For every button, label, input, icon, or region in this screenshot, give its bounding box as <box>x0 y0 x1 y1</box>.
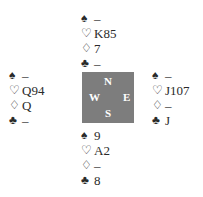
spade-icon: ♠ <box>81 128 94 143</box>
compass: N W E S <box>82 72 134 123</box>
spade-icon: ♠ <box>81 11 94 26</box>
north-hand: ♠– ♡K85 ♢7 ♣– <box>81 11 116 71</box>
diamond-icon: ♢ <box>81 41 94 56</box>
heart-icon: ♡ <box>152 83 165 98</box>
diamond-icon: ♢ <box>9 98 22 113</box>
west-diamonds: Q <box>22 98 31 113</box>
west-clubs: – <box>22 113 29 128</box>
heart-icon: ♡ <box>81 143 94 158</box>
spade-icon: ♠ <box>152 68 165 83</box>
east-spades: – <box>165 68 172 83</box>
heart-icon: ♡ <box>81 26 94 41</box>
spade-icon: ♠ <box>9 68 22 83</box>
west-spades: – <box>22 68 29 83</box>
compass-west: W <box>89 91 100 103</box>
club-icon: ♣ <box>81 56 94 71</box>
heart-icon: ♡ <box>9 83 22 98</box>
diamond-icon: ♢ <box>152 98 165 113</box>
south-clubs: 8 <box>94 173 101 188</box>
club-icon: ♣ <box>81 173 94 188</box>
club-icon: ♣ <box>152 113 165 128</box>
south-hand: ♠9 ♡A2 ♢– ♣8 <box>81 128 110 188</box>
south-hearts: A2 <box>94 143 110 158</box>
west-hearts: Q94 <box>22 83 44 98</box>
compass-east: E <box>123 91 130 103</box>
south-diamonds: – <box>94 158 101 173</box>
north-diamonds: 7 <box>94 41 101 56</box>
west-hand: ♠– ♡Q94 ♢Q ♣– <box>9 68 44 128</box>
east-clubs: J <box>165 113 170 128</box>
club-icon: ♣ <box>9 113 22 128</box>
east-diamonds: – <box>165 98 172 113</box>
compass-north: N <box>104 75 112 87</box>
east-hearts: J107 <box>165 83 190 98</box>
diamond-icon: ♢ <box>81 158 94 173</box>
north-spades: – <box>94 11 101 26</box>
north-hearts: K85 <box>94 26 116 41</box>
compass-south: S <box>105 107 111 119</box>
north-clubs: – <box>94 56 101 71</box>
south-spades: 9 <box>94 128 101 143</box>
east-hand: ♠– ♡J107 ♢– ♣J <box>152 68 190 128</box>
